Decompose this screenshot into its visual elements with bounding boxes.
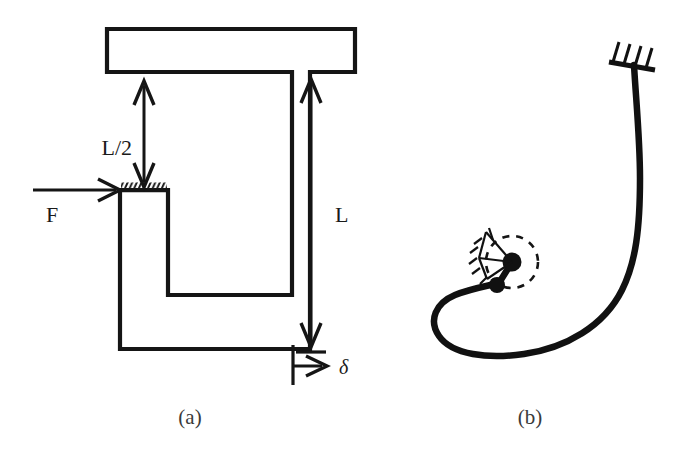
panel-a: F L/2 L δ xyxy=(33,29,355,429)
pin-joint-lower xyxy=(489,277,505,293)
force-label: F xyxy=(46,202,58,227)
caption-b: (b) xyxy=(518,405,543,429)
figure-container: F L/2 L δ xyxy=(0,0,680,458)
caption-a: (a) xyxy=(178,405,201,429)
panel-b: (b) xyxy=(434,42,655,429)
deflection-label: δ xyxy=(339,356,349,378)
length-dimension-arrow xyxy=(301,79,321,347)
figure-canvas: F L/2 L δ xyxy=(0,0,680,458)
length-label: L xyxy=(335,202,348,227)
buckled-beam-curve xyxy=(434,65,640,356)
half-length-label: L/2 xyxy=(101,135,132,160)
force-arrow-f xyxy=(33,179,120,201)
fixed-clamp-support xyxy=(609,42,655,70)
half-length-dimension-arrow xyxy=(134,81,154,187)
